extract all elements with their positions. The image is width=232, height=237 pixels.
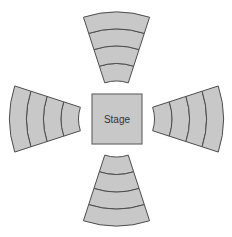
seating-row[interactable]: [94, 46, 139, 66]
north-section[interactable]: [83, 12, 149, 83]
seating-row[interactable]: [99, 155, 133, 174]
venue-seating-diagram: Stage: [0, 0, 232, 237]
seating-row[interactable]: [99, 64, 133, 83]
stage-label: Stage: [104, 114, 131, 125]
seating-plan-canvas: Stage: [0, 0, 232, 237]
seating-row[interactable]: [94, 172, 139, 192]
seating-row[interactable]: [43, 96, 63, 141]
east-section[interactable]: [153, 86, 224, 152]
south-section[interactable]: [83, 155, 149, 226]
seating-row[interactable]: [61, 102, 80, 136]
west-section[interactable]: [10, 86, 81, 152]
seating-row[interactable]: [169, 96, 189, 141]
seating-row[interactable]: [153, 102, 172, 136]
